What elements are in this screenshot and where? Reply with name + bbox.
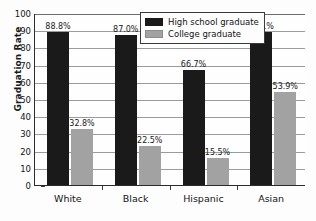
legend-item[interactable]: High school graduate <box>145 16 259 28</box>
y-tick-label: 60 <box>10 79 31 87</box>
y-tick-label: 20 <box>10 148 31 156</box>
bar[interactable]: 53.9% <box>274 92 296 185</box>
x-tick-label-white: White <box>54 193 82 204</box>
x-tick-label-asian: Asian <box>258 193 284 204</box>
bar-value-label: 53.9% <box>273 82 298 91</box>
bar[interactable]: 87.0% <box>115 35 137 185</box>
legend-label: College graduate <box>168 29 241 39</box>
x-tick-mark <box>237 186 238 190</box>
bar-chart: Graduation Rate 1009080706050403020100 8… <box>0 0 316 221</box>
x-axis-tick-labels: WhiteBlackHispanicAsian <box>34 193 305 209</box>
x-tick-label-hispanic: Hispanic <box>183 193 223 204</box>
bar-value-label: 66.7% <box>181 60 206 69</box>
legend-swatch-icon <box>145 18 163 26</box>
bar-group: 88.8%32.8% <box>35 14 103 185</box>
x-axis-tick-marks <box>34 186 305 191</box>
y-tick-label: 80 <box>10 44 31 52</box>
bar[interactable]: 88.8% <box>47 32 69 185</box>
bar[interactable]: 15.5% <box>207 158 229 185</box>
bar-value-label: 87.0% <box>113 25 138 34</box>
bar[interactable]: 66.7% <box>183 70 205 185</box>
bar[interactable]: 22.5% <box>139 146 161 185</box>
legend-label: High school graduate <box>168 17 259 27</box>
y-tick-label: 0 <box>10 182 31 190</box>
y-tick-label: 70 <box>10 62 31 70</box>
y-tick-label: 50 <box>10 96 31 104</box>
x-tick-mark <box>102 186 103 190</box>
bar-value-label: 88.8% <box>45 22 70 31</box>
bar[interactable]: 32.8% <box>71 129 93 185</box>
y-tick-label: 100 <box>10 10 31 18</box>
legend-item[interactable]: College graduate <box>145 28 259 40</box>
y-tick-label: 30 <box>10 130 31 138</box>
bar[interactable]: 89.1% <box>250 32 272 185</box>
y-tick-label: 10 <box>10 165 31 173</box>
y-axis-tick-labels: 1009080706050403020100 <box>10 14 31 186</box>
chart-legend: High school graduateCollege graduate <box>140 12 265 44</box>
bar-value-label: 15.5% <box>205 148 230 157</box>
bar-value-label: 32.8% <box>69 119 94 128</box>
x-tick-label-black: Black <box>123 193 149 204</box>
x-tick-mark <box>170 186 171 190</box>
y-tick-label: 90 <box>10 27 31 35</box>
bar-value-label: 22.5% <box>137 136 162 145</box>
legend-swatch-icon <box>145 30 163 38</box>
y-tick-label: 40 <box>10 113 31 121</box>
